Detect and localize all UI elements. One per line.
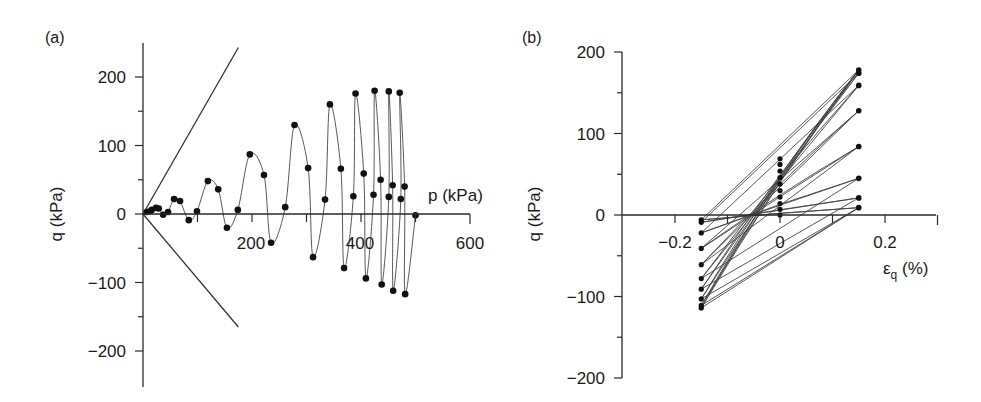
panel-b-y-label: q (kPa) (525, 187, 544, 242)
panel-b-plot-area (699, 67, 862, 310)
data-point-middle (777, 207, 782, 212)
data-point (235, 207, 242, 214)
data-point-left (699, 230, 704, 235)
envelope-line-compression (143, 48, 238, 214)
panel-a-ytick: 200 (98, 68, 126, 87)
panel-b: (b) 200 100 0 −100 −200 −0.2 0 0.2 q (kP… (522, 29, 938, 388)
panel-b-xtick: 0.2 (873, 233, 897, 252)
panel-a-xtick: 400 (346, 234, 374, 253)
panel-a-ytick: 0 (117, 205, 126, 224)
data-point (385, 194, 392, 201)
data-point (305, 165, 312, 172)
data-point (360, 170, 367, 177)
data-point (396, 89, 403, 96)
data-point-middle (777, 188, 782, 193)
data-point (247, 151, 254, 158)
data-point (261, 172, 268, 179)
data-point-right (856, 108, 862, 114)
secant-line (701, 73, 859, 222)
data-point (341, 265, 348, 272)
panel-a-y-label: q (kPa) (47, 187, 66, 242)
data-point (268, 239, 275, 246)
panel-a-ytick: −200 (88, 342, 126, 361)
data-point (291, 122, 298, 129)
data-point (378, 281, 385, 288)
panel-b-ytick: 100 (577, 125, 605, 144)
panel-b-ytick: 0 (596, 206, 605, 225)
panel-b-ytick: −200 (567, 369, 605, 388)
data-point (215, 186, 222, 193)
panel-b-x-label: εq (%) (883, 259, 928, 282)
data-point-right (856, 195, 862, 201)
panel-a: (a) 200 100 0 −100 −200 200 400 600 q (k… (45, 29, 484, 387)
panel-b-x-label-subscript: q (891, 268, 898, 282)
data-point-left (699, 287, 704, 292)
data-point-right (856, 83, 862, 89)
data-point (310, 254, 317, 261)
data-point-left (699, 305, 704, 310)
data-point-middle (777, 181, 782, 186)
data-point (205, 178, 212, 185)
panel-a-ytick: 100 (98, 137, 126, 156)
data-point (371, 87, 378, 94)
panel-a-plot-area (143, 48, 419, 327)
data-point (322, 196, 329, 203)
data-point-middle (777, 156, 782, 161)
data-point (224, 224, 231, 231)
data-point-middle (777, 175, 782, 180)
data-point-right (856, 176, 862, 182)
panel-a-ytick: −100 (88, 274, 126, 293)
data-point-right (856, 205, 862, 211)
data-point (397, 196, 404, 203)
data-point (156, 205, 163, 212)
data-point-left (699, 220, 704, 225)
data-point-left (699, 276, 704, 281)
panel-a-x-label: p (kPa) (428, 186, 483, 205)
data-point-left (699, 262, 704, 267)
data-point (377, 176, 384, 183)
panel-b-ytick: 200 (577, 43, 605, 62)
data-point (401, 183, 408, 190)
data-point (352, 90, 359, 97)
data-point (350, 193, 357, 200)
data-point (177, 198, 184, 205)
data-point-middle (777, 168, 782, 173)
data-point (327, 101, 334, 108)
data-point-left (699, 246, 704, 251)
data-point-left (699, 296, 704, 301)
data-point (338, 165, 345, 172)
panel-a-label: (a) (45, 29, 65, 46)
data-point (402, 291, 409, 298)
panel-b-ytick: −100 (567, 288, 605, 307)
data-point-middle (777, 194, 782, 199)
panel-a-xtick: 200 (237, 234, 265, 253)
secant-line (701, 178, 859, 278)
data-point (282, 204, 289, 211)
data-point-middle (777, 201, 782, 206)
panel-b-label: (b) (522, 29, 542, 46)
data-point (385, 88, 392, 95)
loading-branch (701, 70, 859, 306)
data-point (390, 287, 397, 294)
data-point (389, 182, 396, 189)
envelope-line-extension (143, 214, 238, 327)
data-point-right (856, 67, 862, 73)
data-point-right (856, 144, 862, 150)
data-point (363, 275, 370, 282)
panel-b-xtick: 0 (775, 233, 784, 252)
data-point-middle (777, 162, 782, 167)
data-point (185, 217, 192, 224)
panel-b-xtick: −0.2 (658, 233, 692, 252)
data-point (370, 192, 377, 199)
unloading-branch (701, 70, 859, 306)
panel-b-x-label-unit: (%) (897, 259, 928, 278)
panel-a-xtick: 600 (456, 234, 484, 253)
data-point (171, 196, 178, 203)
figure: (a) 200 100 0 −100 −200 200 400 600 q (k… (0, 0, 981, 402)
